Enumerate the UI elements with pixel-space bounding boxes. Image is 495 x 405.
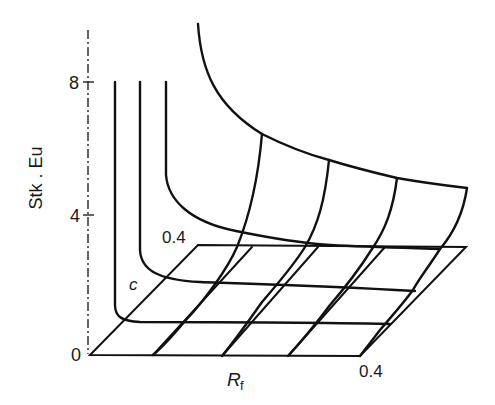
- x-axis-label-subscript: f: [240, 378, 244, 393]
- curve-c-0.4: [166, 82, 440, 249]
- x-axis-end-tick-label: 0.4: [359, 362, 383, 381]
- y-tick-label-8: 8: [69, 73, 79, 93]
- curve-value-label: 0.4: [162, 228, 186, 247]
- x-axis-label: R: [227, 369, 241, 390]
- y-tick-label-4: 4: [70, 206, 80, 226]
- y-axis-label: Stk . Eu: [26, 146, 46, 209]
- surface-cross-line: [360, 188, 467, 356]
- surface-top-curve: [198, 24, 467, 188]
- surface-diagram: 8 4 0 Stk . Eu 0.4 c R f 0.4: [0, 0, 495, 405]
- base-plane-outline: [90, 245, 466, 356]
- y-tick-label-0: 0: [71, 345, 81, 365]
- curve-parameter-label: c: [129, 275, 138, 294]
